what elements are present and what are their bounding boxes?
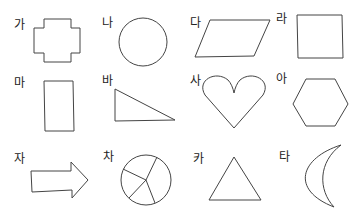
pie-circle-shape-icon bbox=[121, 155, 171, 205]
right-triangle-shape-icon bbox=[115, 89, 175, 121]
triangle-shape-icon bbox=[209, 157, 261, 200]
square-shape-icon bbox=[297, 15, 343, 58]
crescent-shape-icon bbox=[305, 145, 341, 207]
heart-shape-icon bbox=[203, 76, 266, 128]
hexagon-shape-icon bbox=[293, 79, 348, 126]
parallelogram-shape-icon bbox=[195, 20, 270, 57]
cross-shape-icon bbox=[34, 19, 80, 62]
arrow-shape-icon bbox=[31, 162, 88, 198]
shapes-canvas bbox=[0, 0, 362, 218]
rectangle-shape-icon bbox=[44, 81, 74, 131]
circle-shape-icon bbox=[119, 18, 167, 66]
